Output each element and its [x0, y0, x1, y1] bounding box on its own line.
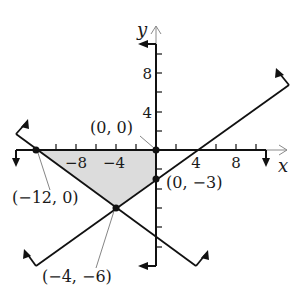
y-tick-label: 8: [142, 65, 152, 83]
x-tick-label: −4: [103, 154, 125, 172]
down-arrow-icon: [12, 158, 20, 167]
x-tick-label: 8: [231, 154, 241, 172]
point-label: (−4, −6): [42, 267, 112, 286]
vertex-point: [153, 147, 160, 154]
x-tick-label: −8: [65, 154, 87, 172]
left-arrow-icon: [138, 40, 148, 48]
point-label: (−12, 0): [12, 188, 79, 207]
point-label: (0, −3): [166, 173, 222, 192]
left-arrow-icon: [138, 262, 148, 270]
vertex-point: [33, 147, 40, 154]
vertex-point: [153, 176, 160, 183]
point-label: (0, 0): [90, 118, 133, 137]
y-axis-label: y: [136, 19, 148, 40]
inequality-graph: y x −8 −4 4 8 8 4 (0, 0) (−12, 0) (0, −3…: [0, 0, 304, 307]
x-axis-label: x: [278, 155, 288, 176]
y-tick-label: 4: [142, 104, 152, 122]
vertex-point: [113, 205, 120, 212]
down-arrow-icon: [262, 158, 270, 167]
x-tick-label: 4: [191, 154, 201, 172]
